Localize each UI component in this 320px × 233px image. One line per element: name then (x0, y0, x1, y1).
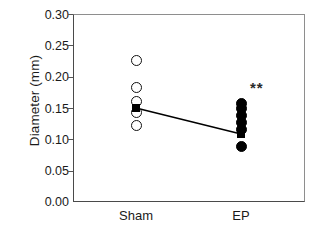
y-tick-label-010: 0.10 (29, 134, 69, 147)
chart-figure: Diameter (mm) 0.30 0.25 0.20 0.15 0.10 0… (0, 0, 320, 233)
y-tick-label-025: 0.25 (29, 40, 69, 53)
y-tick-label-000: 0.00 (29, 196, 69, 209)
mean-marker-sham (132, 104, 140, 112)
x-tick-label-sham: Sham (91, 208, 181, 223)
y-tick-label-015: 0.15 (29, 103, 69, 116)
y-tick-label-005: 0.05 (29, 165, 69, 178)
y-tick-label-020: 0.20 (29, 71, 69, 84)
y-tick-label-030: 0.30 (29, 9, 69, 22)
x-tick-label-ep: EP (196, 208, 286, 223)
data-point-sham-2 (131, 82, 142, 93)
data-point-sham-1 (131, 55, 142, 66)
data-point-ep-6 (236, 141, 247, 152)
y-axis-title: Diameter (mm) (27, 11, 42, 191)
mean-marker-ep (237, 130, 245, 138)
data-point-sham-5 (131, 120, 142, 131)
mean-connector-line (73, 14, 305, 202)
plot-area: ** (73, 14, 305, 202)
significance-asterisks: ** (250, 80, 264, 95)
